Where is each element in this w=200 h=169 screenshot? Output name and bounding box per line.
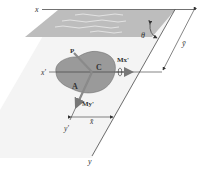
y-axis-label: y (87, 157, 92, 166)
moment-y-label: My' (82, 100, 94, 108)
area-label: A (72, 82, 78, 91)
theta-label: θ (141, 31, 145, 40)
moment-x-label: Mx' (117, 56, 129, 64)
x-bar-label: x̄ (89, 117, 94, 126)
y-bar-label: ȳ (181, 39, 186, 48)
y-prime-label: y' (63, 124, 69, 133)
centroid-label: C (96, 63, 102, 72)
hydrostatic-diagram: x y ȳ θ x' y' P Mx' My' C A x̄ (0, 0, 200, 169)
diagram-canvas: x y ȳ θ x' y' P Mx' My' C A x̄ (0, 0, 200, 169)
force-label: P (70, 47, 75, 55)
x-axis-label: x (34, 5, 39, 14)
x-prime-label: x' (40, 68, 46, 77)
water-surface (25, 10, 175, 37)
